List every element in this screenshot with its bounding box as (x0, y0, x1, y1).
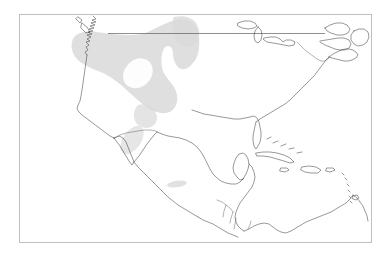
border-panama-colombia (248, 221, 251, 229)
border-us-canada-east (297, 42, 329, 61)
border-central-america-2 (230, 212, 233, 223)
coastline-yucatan-peninsula (233, 153, 249, 180)
coastline-canada-north-east (325, 23, 350, 35)
island-puerto-rico (326, 168, 335, 172)
coastline-maritimes (329, 49, 358, 61)
island-bahamas (267, 137, 302, 153)
coastline-central-america-pacific (198, 217, 238, 237)
great-lakes-erie-ontario (264, 37, 295, 46)
island-jamaica (280, 168, 289, 172)
species-range-group (72, 16, 200, 128)
map-svg (20, 15, 371, 242)
coastline-us-gulf-coast-florida (192, 110, 261, 149)
great-lakes-michigan-huron (254, 27, 262, 43)
figure-canvas (0, 0, 388, 260)
border-mexico-guatemala (217, 200, 233, 212)
island-cuba (256, 152, 294, 163)
coastline-guyana-shield (353, 195, 368, 221)
coastline-st-lawrence (320, 38, 351, 50)
coastline-gulf-of-mexico (157, 132, 243, 184)
coastline-yucatan-caribbean (235, 164, 255, 231)
coastline-south-america-north (244, 195, 353, 233)
coastline-mexico-west-coast (134, 162, 198, 217)
coastline-newfoundland (351, 29, 369, 46)
border-central-america-3 (234, 218, 236, 229)
coastline-haida-gwaii (76, 17, 82, 23)
border-central-america-1 (223, 205, 226, 217)
range-patch-central-mexico (167, 179, 188, 188)
coastline-vancouver-island (81, 23, 90, 33)
island-hispaniola (301, 166, 321, 173)
great-lakes-superior (238, 21, 257, 29)
species-range-secondary-group (115, 122, 187, 189)
coastline-us-east-coast (256, 57, 329, 122)
map-axes (19, 14, 372, 243)
